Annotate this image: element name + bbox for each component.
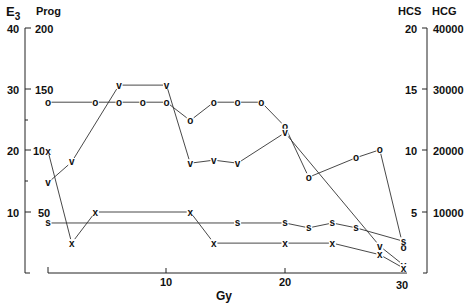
e3-tick-10: 10 — [7, 207, 19, 219]
marker-x: x — [69, 238, 75, 249]
hcg-tick-40000: 40000 — [433, 23, 464, 35]
marker-o: o — [235, 97, 241, 108]
series-v: vvvvvvvvvv — [45, 80, 408, 271]
e3-tick-40: 40 — [7, 23, 19, 35]
marker-s: s — [306, 222, 312, 233]
x-tick-20: 20 — [279, 276, 291, 288]
e3-tick-30: 30 — [7, 84, 19, 96]
hcs-tick-15: 15 — [405, 84, 417, 96]
marker-o: o — [163, 97, 169, 108]
marker-o: o — [258, 97, 264, 108]
marker-x: x — [93, 207, 99, 218]
x-ticks — [48, 267, 285, 273]
right-ticks — [422, 28, 427, 212]
marker-o: o — [211, 97, 217, 108]
marker-x: x — [45, 146, 51, 157]
prog-tick-150: 150 — [35, 84, 53, 96]
hcg-tick-20000: 20000 — [433, 145, 464, 157]
marker-v: v — [235, 158, 241, 169]
marker-s: s — [45, 217, 51, 228]
marker-o: o — [306, 172, 312, 183]
marker-o: o — [353, 152, 359, 163]
prog-axis-title: Prog — [36, 5, 61, 17]
hcs-axis-title: HCS — [398, 5, 421, 17]
x-axis-title: Gy — [216, 289, 232, 303]
marker-v: v — [187, 158, 193, 169]
marker-s: s — [282, 217, 288, 228]
hcg-tick-10000: 10000 — [433, 207, 464, 219]
hormone-chart: E3 Prog HCS HCG 40 30 20 10 200 150 100 … — [0, 0, 466, 305]
marker-o: o — [116, 97, 122, 108]
e3-axis-title: E3 — [6, 4, 21, 22]
marker-o: o — [187, 115, 193, 126]
hcs-tick-5: 5 — [411, 207, 417, 219]
marker-x: x — [187, 207, 193, 218]
marker-v: v — [69, 156, 75, 167]
marker-s: s — [353, 222, 359, 233]
marker-v: v — [282, 127, 288, 138]
series-x: xxxxxxxxx — [45, 146, 408, 274]
hcs-tick-10: 10 — [405, 145, 417, 157]
left-ticks — [25, 28, 31, 212]
hcg-axis-title: HCG — [432, 5, 456, 17]
hcs-tick-20: 20 — [405, 23, 417, 35]
marker-o: o — [45, 97, 51, 108]
x-tick-10: 10 — [160, 276, 172, 288]
hcg-tick-30000: 30000 — [433, 84, 464, 96]
x-tick-30: 30 — [396, 279, 408, 291]
marker-v: v — [116, 80, 122, 91]
marker-x: x — [330, 238, 336, 249]
marker-o: o — [377, 144, 383, 155]
marker-o: o — [140, 97, 146, 108]
marker-s: s — [401, 236, 407, 247]
marker-x: x — [211, 238, 217, 249]
marker-s: s — [235, 217, 241, 228]
marker-x: x — [282, 238, 288, 249]
marker-o: o — [92, 97, 98, 108]
marker-x: x — [401, 263, 407, 274]
series-layer: oooooooooooooovvvvvvvvvvxxxxxxxxxsssssss — [45, 80, 408, 274]
e3-tick-20: 20 — [7, 145, 19, 157]
series-s: sssssss — [45, 217, 408, 246]
marker-x: x — [377, 249, 383, 260]
marker-v: v — [164, 80, 170, 91]
marker-v: v — [45, 177, 51, 188]
marker-s: s — [330, 217, 336, 228]
marker-v: v — [211, 155, 217, 166]
prog-tick-200: 200 — [35, 23, 53, 35]
